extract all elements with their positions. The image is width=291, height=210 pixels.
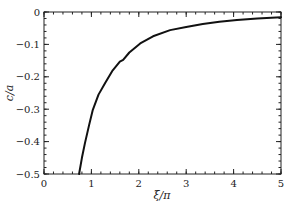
y-tick-label: −0.2 — [16, 71, 40, 82]
x-tick-label: 0 — [41, 178, 47, 189]
x-axis-label: ξ/π — [154, 189, 172, 202]
y-tick-label: −0.1 — [16, 39, 40, 50]
x-tick-label: 2 — [136, 178, 142, 189]
x-tick-label: 5 — [278, 178, 284, 189]
y-tick-label: 0 — [34, 7, 40, 18]
y-tick-label: −0.4 — [16, 136, 40, 147]
x-tick-label: 3 — [183, 178, 189, 189]
major-ticks — [44, 12, 281, 174]
y-tick-label: −0.3 — [16, 104, 40, 115]
y-axis-label: c/a — [3, 85, 16, 101]
x-tick-label: 1 — [88, 178, 94, 189]
minor-ticks — [44, 12, 281, 174]
x-tick-labels: 012345 — [41, 178, 284, 189]
x-tick-label: 4 — [230, 178, 236, 189]
line-chart: 012345 0−0.1−0.2−0.3−0.4−0.5 ξ/π c/a — [0, 0, 291, 210]
data-curve — [79, 17, 281, 174]
plot-frame — [44, 12, 281, 174]
y-tick-labels: 0−0.1−0.2−0.3−0.4−0.5 — [16, 7, 40, 180]
y-tick-label: −0.5 — [16, 169, 40, 180]
